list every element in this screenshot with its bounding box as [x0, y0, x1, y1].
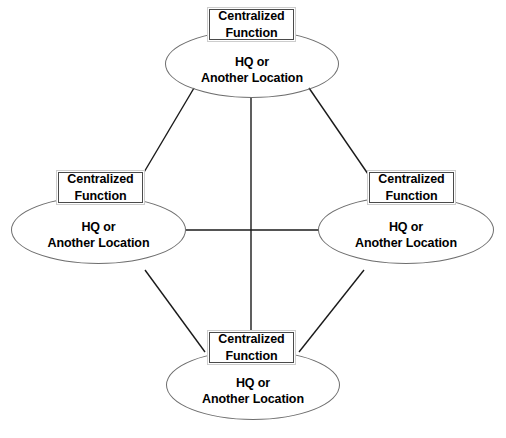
diagram-canvas: HQ or Another Location Centralized Funct…: [0, 0, 506, 438]
node-right-centralized-function-box[interactable]: Centralized Function: [367, 170, 456, 205]
node-left-box-line1: Centralized: [67, 171, 133, 187]
node-top-location-line1: HQ or: [165, 54, 339, 70]
node-bottom-location-line1: HQ or: [166, 375, 340, 391]
node-left-box-line2: Function: [75, 188, 127, 204]
node-left-location-line2: Another Location: [11, 235, 186, 251]
node-bottom-location-line2: Another Location: [166, 391, 340, 407]
edge-top-to-left-diagonal: [143, 88, 194, 174]
node-left-centralized-function-box[interactable]: Centralized Function: [56, 170, 145, 205]
node-bottom-location-label: HQ or Another Location: [166, 375, 340, 407]
edge-right-to-bottom-diagonal: [299, 270, 364, 352]
node-bottom-box-line1: Centralized: [218, 331, 284, 347]
edge-left-to-bottom-diagonal: [145, 270, 205, 352]
node-left-location-label: HQ or Another Location: [11, 219, 186, 251]
node-right-box-line1: Centralized: [378, 171, 444, 187]
edge-top-to-right-diagonal: [309, 88, 368, 174]
node-bottom-centralized-function-box[interactable]: Centralized Function: [207, 330, 296, 365]
node-top-box-line2: Function: [226, 25, 278, 41]
node-right-location-line2: Another Location: [318, 235, 494, 251]
node-right-box-line2: Function: [386, 188, 438, 204]
node-top-location-label: HQ or Another Location: [165, 54, 339, 86]
node-left-location-line1: HQ or: [11, 219, 186, 235]
node-top-centralized-function-box[interactable]: Centralized Function: [207, 7, 296, 42]
node-bottom-box-line2: Function: [226, 348, 278, 364]
node-right-location-line1: HQ or: [318, 219, 494, 235]
node-top-location-line2: Another Location: [165, 70, 339, 86]
node-right-location-label: HQ or Another Location: [318, 219, 494, 251]
node-top-box-line1: Centralized: [218, 8, 284, 24]
